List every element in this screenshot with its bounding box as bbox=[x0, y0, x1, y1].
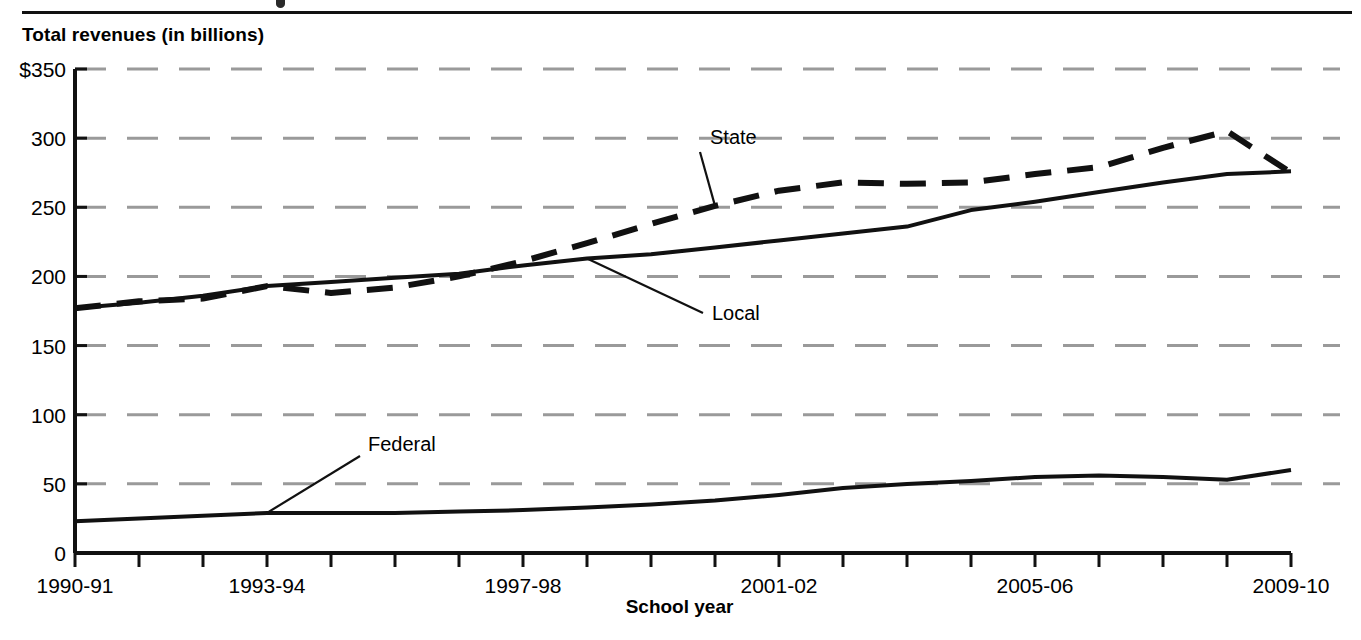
x-axis-tick-labels: 1990-911993-941997-982001-022005-062009-… bbox=[36, 574, 1329, 597]
x-axis-title: School year bbox=[626, 596, 734, 618]
axis-lines bbox=[75, 69, 1291, 553]
x-axis-tick-label: 2009-10 bbox=[1252, 574, 1329, 597]
line-chart-plot: $350300250200150100500 1990-911993-94199… bbox=[0, 0, 1361, 640]
y-axis-tick-label: 0 bbox=[54, 542, 66, 565]
series-label-local: Local bbox=[712, 302, 760, 324]
series-line-local bbox=[75, 171, 1291, 308]
gridlines-group bbox=[75, 69, 1340, 484]
series-line-state bbox=[75, 131, 1291, 308]
y-axis-tick-label: 150 bbox=[31, 335, 66, 358]
chart-figure: Total revenues (in billions) $3503002502… bbox=[0, 0, 1361, 640]
y-axis-tick-label: 300 bbox=[31, 127, 66, 150]
x-axis-tick-label: 1997-98 bbox=[484, 574, 561, 597]
callout-leader-line-state bbox=[700, 152, 715, 206]
callout-leader-line-local bbox=[587, 258, 703, 313]
y-axis-tick-label: 50 bbox=[43, 473, 66, 496]
x-axis-tick-label: 1990-91 bbox=[36, 574, 113, 597]
x-axis-ticks bbox=[75, 553, 1291, 567]
y-axis-tick-label: 200 bbox=[31, 265, 66, 288]
x-axis-title-wrap: School year bbox=[0, 596, 1361, 618]
series-line-federal bbox=[75, 470, 1291, 521]
y-axis-tick-label: $350 bbox=[19, 58, 66, 81]
x-axis-tick-label: 2001-02 bbox=[740, 574, 817, 597]
series-label-federal: Federal bbox=[368, 433, 436, 455]
y-axis-tick-label: 250 bbox=[31, 196, 66, 219]
y-axis-tick-label: 100 bbox=[31, 404, 66, 427]
series-label-state: State bbox=[710, 126, 757, 148]
series-callouts-group: StateLocalFederal bbox=[267, 126, 760, 513]
x-axis-tick-label: 1993-94 bbox=[228, 574, 305, 597]
x-axis-tick-label: 2005-06 bbox=[996, 574, 1073, 597]
data-series-group bbox=[75, 131, 1291, 521]
